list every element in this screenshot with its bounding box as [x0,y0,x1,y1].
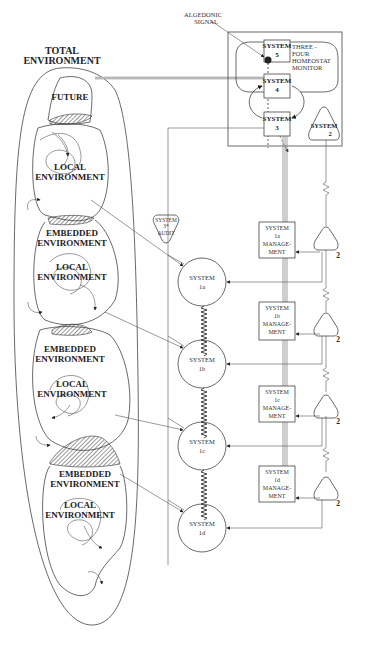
system-2: SYSTEM 2 [309,107,340,140]
svg-text:ENVIRONMENT: ENVIRONMENT [35,354,105,364]
environment-3: EMBEDDED ENVIRONMENT LOCAL ENVIRONMENT [33,327,130,451]
svg-text:1a: 1a [274,233,280,239]
s3-to-s4-arrow [249,86,262,118]
operation-1b: SYSTEM 1b SYSTEM 1b MANAGE- MENT 2 [105,302,340,388]
svg-text:MANAGE-: MANAGE- [263,321,291,327]
svg-text:LOCAL: LOCAL [56,262,88,272]
svg-text:1d: 1d [199,529,206,536]
svg-text:ENVIRONMENT: ENVIRONMENT [45,510,115,520]
system-3: SYSTEM 3 [263,112,292,136]
algedonic-node-icon [265,57,272,64]
svg-text:1c: 1c [199,447,205,454]
svg-text:MENT: MENT [269,249,286,255]
environment-1: LOCAL ENVIRONMENT [28,124,109,221]
svg-text:MONITOR: MONITOR [292,64,323,71]
svg-text:EMBEDDED: EMBEDDED [46,228,99,238]
svg-text:SYSTEM: SYSTEM [263,42,292,50]
svg-text:1a: 1a [199,283,205,290]
system-4: SYSTEM 4 [263,74,292,98]
svg-text:LOCAL: LOCAL [64,500,96,510]
svg-text:SYSTEM: SYSTEM [189,438,215,445]
svg-text:ENVIRONMENT: ENVIRONMENT [37,238,107,248]
svg-text:3: 3 [275,124,279,132]
svg-text:1b: 1b [274,313,280,319]
svg-text:AUDIT: AUDIT [157,230,175,236]
svg-text:3*: 3* [163,223,169,229]
svg-text:1d: 1d [274,477,280,483]
svg-text:EMBEDDED: EMBEDDED [59,469,112,479]
svg-text:EMBEDDED: EMBEDDED [44,344,97,354]
total-environment-label: TOTAL ENVIRONMENT [23,45,101,66]
svg-text:SYSTEM: SYSTEM [263,115,292,123]
svg-text:1b: 1b [199,365,206,372]
svg-text:SIGNAL: SIGNAL [194,18,218,25]
svg-text:5: 5 [275,51,279,59]
environment-4: EMBEDDED ENVIRONMENT LOCAL ENVIRONMENT [43,466,127,596]
svg-text:SYSTEM: SYSTEM [265,225,289,231]
svg-text:4: 4 [275,86,279,94]
svg-text:ENVIRONMENT: ENVIRONMENT [37,272,107,282]
svg-text:MANAGE-: MANAGE- [263,241,291,247]
svg-text:MENT: MENT [269,329,286,335]
operations-interaction-links [201,306,207,520]
embedded-hatch-3 [50,436,120,467]
vsm-diagram: TOTAL ENVIRONMENT FUTURE LOCAL ENVIRONME… [0,0,367,663]
svg-text:ENVIRONMENT: ENVIRONMENT [35,172,105,182]
svg-text:HOMEOSTAT: HOMEOSTAT [292,57,331,64]
svg-text:2: 2 [336,251,340,260]
homeostat-monitor-label: THREE - FOUR HOMEOSTAT MONITOR [292,43,331,71]
svg-text:SYSTEM: SYSTEM [265,305,289,311]
svg-text:THREE -: THREE - [292,43,317,50]
operation-1d: SYSTEM 1d SYSTEM 1d MANAGE- MENT 2 [120,466,340,552]
svg-text:2: 2 [328,130,331,137]
svg-text:SYSTEM: SYSTEM [189,356,215,363]
svg-text:MANAGE-: MANAGE- [263,485,291,491]
environment-2: EMBEDDED ENVIRONMENT LOCAL ENVIRONMENT [28,220,118,325]
embedded-hatch-1 [48,215,94,224]
svg-text:ENVIRONMENT: ENVIRONMENT [23,55,101,66]
algedonic-signal-label: ALGEDONIC SIGNAL [184,11,222,25]
svg-text:2: 2 [336,417,340,426]
s4-to-s3-arrow [292,86,304,118]
svg-text:LOCAL: LOCAL [54,162,86,172]
svg-text:ENVIRONMENT: ENVIRONMENT [50,479,120,489]
algedonic-arrow [210,20,264,57]
svg-text:MANAGE-: MANAGE- [263,405,291,411]
svg-text:1c: 1c [274,397,280,403]
embedded-hatch-2 [52,324,92,335]
operation-1a: SYSTEM 1a SYSTEM 1a MANAGE- MENT 2 [91,200,340,306]
svg-text:2: 2 [336,499,340,508]
svg-text:SYSTEM: SYSTEM [265,389,289,395]
svg-text:SYSTEM: SYSTEM [189,520,215,527]
svg-text:ALGEDONIC: ALGEDONIC [184,11,222,18]
svg-text:2: 2 [336,335,340,344]
svg-text:SYSTEM: SYSTEM [265,469,289,475]
svg-text:FOUR: FOUR [292,50,310,57]
svg-text:LOCAL: LOCAL [56,379,88,389]
svg-text:SYSTEM: SYSTEM [189,274,215,281]
svg-text:SYSTEM: SYSTEM [311,122,338,129]
operation-1c: SYSTEM 1c SYSTEM 1c MANAGE- MENT 2 [115,386,340,470]
svg-text:MENT: MENT [269,493,286,499]
system-3-star-audit: SYSTEM 3* AUDIT [153,215,179,243]
svg-text:MENT: MENT [269,413,286,419]
future-label: FUTURE [51,92,88,102]
system2-regulatory-channel [323,140,329,472]
svg-text:ENVIRONMENT: ENVIRONMENT [37,389,107,399]
svg-text:SYSTEM: SYSTEM [263,77,292,85]
